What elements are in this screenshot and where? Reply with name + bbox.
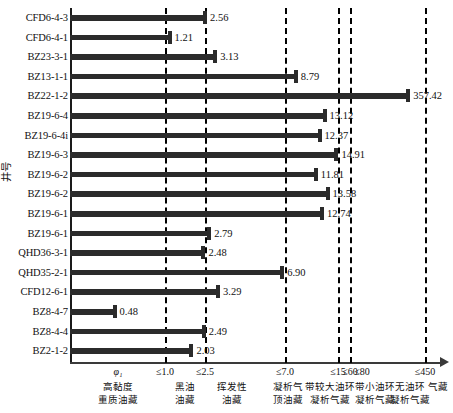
bar-row: BZ19-6-413.12 [0,107,453,125]
bar-row: CFD12-6-13.29 [0,283,453,301]
y-axis-category-label-wrap: BZ19-6-2 [0,166,68,184]
bar-end-cap [213,50,217,63]
zone-caption-line1: 挥发性 [217,381,247,394]
y-axis-category-label-wrap: BZ23-3-1 [0,48,68,66]
bar-end-cap [207,227,211,240]
zone-caption-line2: 油藏 [175,394,195,407]
bar-value-label: 3.29 [223,283,241,301]
bar-row: BZ19-6-12.79 [0,225,453,243]
zone-caption-line1: 黑油 [175,381,195,394]
bar [70,113,326,119]
bar-value-label: 2.03 [196,342,214,360]
bar-value-label: 8.79 [301,68,319,86]
bar [70,309,116,315]
x-tick-label: ≤450 [415,366,436,377]
bar-value-label: 2.48 [208,244,226,262]
bar [70,191,329,197]
bar-end-cap [406,89,410,102]
zone-caption-line2: 凝析气藏 [305,394,355,407]
bar-row: BZ22-1-2357.42 [0,87,453,105]
zone-caption: 凝析气顶油藏 [273,381,303,406]
bar-end-cap [314,168,318,181]
y-axis-category-label-wrap: CFD6-4-1 [0,29,68,47]
bar-value-label: 357.42 [413,87,442,105]
bar-row: BZ8-4-42.49 [0,323,453,341]
y-axis-category-label-wrap: BZ19-6-3 [0,146,68,164]
y-axis-category-label: BZ8-4-4 [33,323,68,341]
y-axis-category-label: BZ22-1-2 [27,87,68,105]
zone-caption: 无油环凝析气藏 [390,381,430,406]
y-axis-category-label-wrap: BZ19-6-4i [0,127,68,145]
bar-value-label: 14.91 [341,146,365,164]
bar-end-cap [203,11,207,24]
zone-caption-line1: 带小油环 [355,381,395,394]
zone-caption: 带小油环凝析气藏 [355,381,395,406]
zone-caption-line2: 顶油藏 [273,394,303,407]
y-axis-category-label-wrap: BZ8-4-4 [0,323,68,341]
bar-end-cap [334,148,338,161]
bar-row: BZ19-6-314.91 [0,146,453,164]
bar [70,289,219,295]
zone-caption-line1: 气藏 [428,381,448,394]
y-axis-category-label: BZ19-6-4i [25,127,68,145]
bar [70,348,192,354]
zone-caption: 黑油油藏 [175,381,195,406]
bar [70,133,321,139]
bar [70,172,317,178]
bar-end-cap [202,325,206,338]
zone-caption: 挥发性油藏 [217,381,247,406]
x-tick-label: ≤7.0 [276,366,294,377]
y-axis-category-label: CFD12-6-1 [20,283,68,301]
zone-caption-line2: 凝析气藏 [355,394,395,407]
bar-value-label: 2.56 [210,9,228,27]
bar-chart: 井号 CFD6-4-32.56CFD6-4-11.21BZ23-3-13.13B… [0,0,453,413]
bar [70,74,297,80]
bar-row: BZ23-3-13.13 [0,48,453,66]
bar [70,270,283,276]
bar-value-label: 13.58 [333,185,357,203]
y-axis-category-label: BZ19-6-1 [27,225,68,243]
zone-caption-line2: 重质油藏 [98,394,138,407]
y-axis-category-label-wrap: BZ19-6-1 [0,205,68,223]
x-tick-label: ≤1.0 [156,366,174,377]
bar-value-label: 13.12 [330,107,354,125]
x-axis-line [70,362,442,364]
y-axis-category-label-wrap: BZ8-4-7 [0,303,68,321]
bar-end-cap [113,305,117,318]
bar-end-cap [318,129,322,142]
bar-end-cap [189,344,193,357]
y-axis-category-label: QHD35-2-1 [18,264,68,282]
bar-row: BZ13-1-18.79 [0,68,453,86]
zone-caption: 带较大油环凝析气藏 [305,381,355,406]
bar-end-cap [216,285,220,298]
y-axis-category-label-wrap: BZ22-1-2 [0,87,68,105]
bar [70,250,204,256]
y-axis-category-label: BZ19-6-2 [27,166,68,184]
bar [70,35,171,41]
y-axis-category-label-wrap: BZ19-6-2 [0,185,68,203]
bar-end-cap [280,266,284,279]
bar-value-label: 12.37 [325,127,349,145]
bar-value-label: 1.21 [175,29,193,47]
y-axis-category-label-wrap: QHD35-2-1 [0,264,68,282]
y-axis-category-label: BZ13-1-1 [27,68,68,86]
y-axis-category-label: CFD6-4-3 [26,9,68,27]
bar [70,152,337,158]
bar-end-cap [326,187,330,200]
y-axis-category-label: BZ19-6-2 [27,185,68,203]
y-axis-category-label-wrap: BZ19-6-4 [0,107,68,125]
zone-caption-line1: 无油环 [390,381,430,394]
bar-row: BZ8-4-70.48 [0,303,453,321]
bar-value-label: 0.48 [120,303,138,321]
y-axis-category-label: BZ19-6-1 [27,205,68,223]
zone-caption-line2: 凝析气藏 [390,394,430,407]
y-axis-category-label-wrap: CFD6-4-3 [0,9,68,27]
y-axis-category-label: BZ19-6-4 [27,107,68,125]
bar [70,93,409,99]
bar-value-label: 11.81 [321,166,344,184]
zone-caption: 气藏 [428,381,448,394]
bar [70,329,205,335]
bar-row: BZ19-6-4i12.37 [0,127,453,145]
bar-value-label: 2.79 [214,225,232,243]
zone-caption: 高黏度重质油藏 [98,381,138,406]
